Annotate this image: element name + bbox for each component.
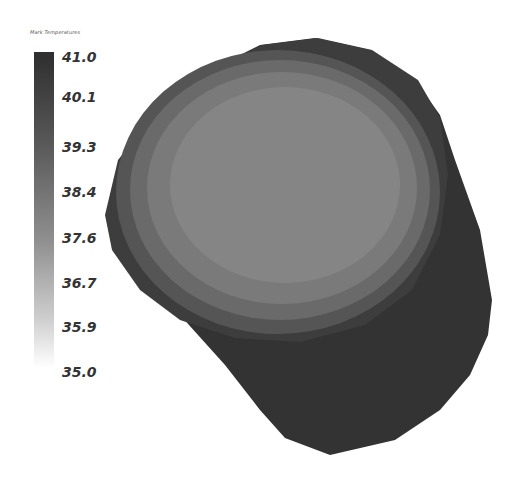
cylinder-render bbox=[0, 0, 519, 483]
contour-core bbox=[170, 87, 400, 283]
